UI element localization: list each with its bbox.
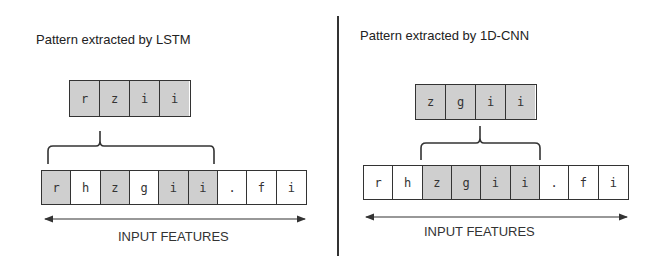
- cnn-brace-icon: [421, 126, 540, 160]
- lstm-brace-icon: [48, 131, 214, 164]
- diagram-lines: [0, 0, 660, 265]
